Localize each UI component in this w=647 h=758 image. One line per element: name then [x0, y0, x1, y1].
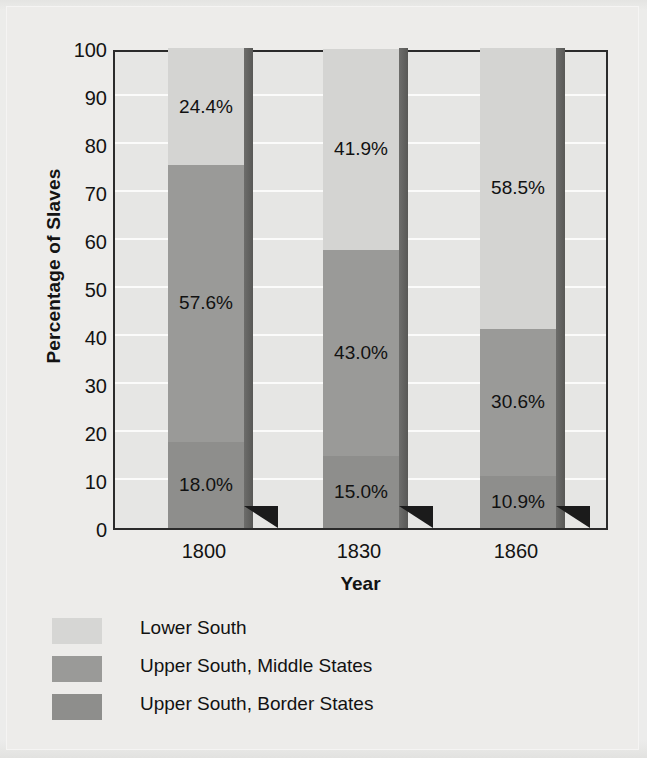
bar-1830[interactable]: 15.0%43.0%41.9%	[323, 48, 399, 528]
bar-1860[interactable]: 10.9%30.6%58.5%	[480, 48, 556, 528]
bar-segment[interactable]: 57.6%	[168, 165, 244, 441]
bar-segment[interactable]: 10.9%	[480, 476, 556, 528]
data-label: 10.9%	[480, 491, 556, 513]
y-tick-label: 20	[85, 424, 107, 444]
legend-item[interactable]: Lower South	[52, 614, 592, 652]
bar-side-shading	[399, 48, 408, 528]
bar-segment[interactable]: 58.5%	[480, 48, 556, 329]
bar-segment[interactable]: 30.6%	[480, 329, 556, 476]
y-tick-label: 80	[85, 136, 107, 156]
y-tick-label: 10	[85, 472, 107, 492]
y-axis-tick-labels: 0102030405060708090100	[52, 50, 107, 530]
legend-label: Upper South, Middle States	[140, 655, 372, 677]
y-tick-label: 50	[85, 280, 107, 300]
y-tick-label: 100	[74, 40, 107, 60]
plot-area: 18.0%57.6%24.4%15.0%43.0%41.9%10.9%30.6%…	[113, 50, 608, 530]
bar-foot-wedge	[244, 506, 278, 528]
y-tick-label: 30	[85, 376, 107, 396]
bar-segment[interactable]: 41.9%	[323, 49, 399, 250]
stacked-bar-chart-figure: Percentage of Slaves 0102030405060708090…	[0, 0, 647, 758]
data-label: 15.0%	[323, 481, 399, 503]
data-label: 57.6%	[168, 292, 244, 314]
x-axis-tick-labels: 180018301860	[113, 540, 608, 574]
bar-side-shading	[244, 48, 253, 528]
chart-legend: Lower SouthUpper South, Middle StatesUpp…	[52, 614, 592, 728]
legend-swatch	[52, 694, 102, 720]
bar-segment[interactable]: 18.0%	[168, 442, 244, 528]
legend-label: Lower South	[140, 617, 247, 639]
bar-segment[interactable]: 15.0%	[323, 456, 399, 528]
data-label: 24.4%	[168, 96, 244, 118]
data-label: 18.0%	[168, 474, 244, 496]
y-tick-label: 60	[85, 232, 107, 252]
bar-side-shading	[556, 48, 565, 528]
y-tick-label: 0	[96, 520, 107, 540]
y-tick-label: 70	[85, 184, 107, 204]
bar-foot-wedge	[399, 506, 433, 528]
bar-segment[interactable]: 24.4%	[168, 48, 244, 165]
data-label: 30.6%	[480, 391, 556, 413]
x-tick-label: 1800	[182, 540, 227, 563]
legend-swatch	[52, 656, 102, 682]
legend-label: Upper South, Border States	[140, 693, 373, 715]
data-label: 58.5%	[480, 177, 556, 199]
x-axis-title: Year	[113, 573, 608, 595]
bar-segment[interactable]: 43.0%	[323, 250, 399, 456]
data-label: 41.9%	[323, 138, 399, 160]
x-tick-label: 1830	[337, 540, 382, 563]
y-tick-label: 90	[85, 88, 107, 108]
bar-foot-wedge	[556, 506, 590, 528]
legend-swatch	[52, 618, 102, 644]
legend-item[interactable]: Upper South, Middle States	[52, 652, 592, 690]
bar-1800[interactable]: 18.0%57.6%24.4%	[168, 48, 244, 528]
x-tick-label: 1860	[494, 540, 539, 563]
y-tick-label: 40	[85, 328, 107, 348]
data-label: 43.0%	[323, 342, 399, 364]
legend-item[interactable]: Upper South, Border States	[52, 690, 592, 728]
